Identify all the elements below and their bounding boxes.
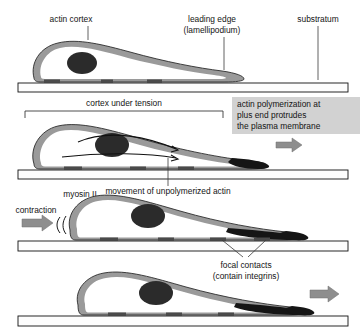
callout-line-1: actin polymerization at: [237, 99, 321, 109]
label-cortex-under-tension: cortex under tension: [86, 98, 162, 108]
substratum-bar-p4: [18, 316, 348, 326]
nucleus-p3: [131, 204, 165, 228]
nucleus-p1: [67, 52, 97, 74]
label-leading-edge-line1: leading edge: [188, 14, 236, 24]
panel-3-contraction: myosin II contraction focal contacts (co…: [16, 189, 348, 281]
panel-2-protrusion: cortex under tension actin polymerizatio…: [18, 97, 360, 196]
label-contraction: contraction: [16, 205, 57, 215]
callout-line-3: the plasma membrane: [237, 121, 321, 131]
protrusion-block-arrow-p2: [276, 138, 302, 152]
substratum-bar-p2: [18, 170, 348, 179]
panel-4-translocation: [18, 272, 348, 326]
label-focal-contacts-line1: focal contacts: [220, 260, 271, 270]
nucleus-p4: [139, 281, 173, 305]
contraction-arc-marks: [57, 216, 66, 234]
tension-bracket: [25, 111, 223, 118]
label-focal-contacts-line2: (contain integrins): [213, 271, 280, 281]
label-actin-cortex: actin cortex: [50, 14, 94, 24]
label-leading-edge-line2: (lamellipodium): [184, 25, 241, 35]
callout-line-2: plus end protrudes: [237, 110, 306, 120]
cell-migration-figure: actin cortex leading edge (lamellipodium…: [0, 0, 363, 334]
label-substratum: substratum: [297, 14, 338, 24]
contraction-block-arrow: [22, 215, 53, 231]
translocation-block-arrow-p4: [310, 286, 339, 302]
substratum-bar-p3: [18, 241, 348, 251]
label-movement-unpolymerized-actin: movement of unpolymerized actin: [105, 186, 231, 196]
substratum-bar-p1: [18, 83, 348, 92]
panel-1-resting-cell: actin cortex leading edge (lamellipodium…: [18, 14, 348, 92]
